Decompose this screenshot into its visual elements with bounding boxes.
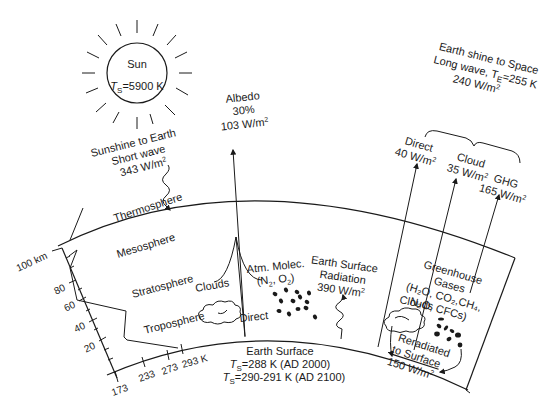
outgoing-cloud-label: Cloud 35 W/m2: [446, 149, 493, 185]
reradiated-label: Reradiated to Surface 150 W/m2: [386, 330, 452, 384]
altitude-axis: 100 km 80 60 40 20: [14, 248, 117, 378]
svg-text:103 W/m2: 103 W/m2: [220, 116, 269, 133]
svg-text:TS=290-291 K (AD 2100): TS=290-291 K (AD 2100): [223, 371, 345, 386]
greenhouse-label: Greenhouse Gases (H₂O, CO₂,CH₄, N₂O, CFC…: [401, 255, 490, 325]
atm-molec-formula: (N2, O2): [256, 271, 295, 289]
sun: Sun TS=5900 K: [82, 20, 192, 129]
temp-tick-233: 233: [137, 368, 157, 384]
outgoing-direct-label: Direct 40 W/m2: [394, 133, 441, 169]
layer-stratosphere: Stratosphere: [130, 272, 194, 300]
layer-troposphere: Troposphere: [143, 309, 206, 336]
earth-energy-balance-diagram: Sun TS=5900 K Sunshine to Earth Short wa…: [0, 0, 551, 408]
temperature-profile-line: [69, 250, 178, 348]
layer-mesosphere: Mesosphere: [115, 231, 176, 260]
atm-molecules-icon: [272, 287, 318, 320]
sun-label: Sun: [127, 58, 147, 70]
svg-text:20: 20: [82, 340, 97, 355]
direct-reflection-label: Direct: [239, 309, 269, 324]
albedo-label: Albedo 30% 103 W/m2: [220, 89, 269, 132]
sun-disc-icon: [107, 43, 167, 103]
sun-temperature: TS=5900 K: [110, 80, 164, 95]
earth-surface-label: Earth Surface TS=288 K (AD 2000) TS=290-…: [223, 345, 345, 386]
svg-text:80: 80: [52, 282, 67, 297]
earthshine-label: Earth shine to Space Long wave, TE=255 K…: [429, 39, 543, 104]
surface-radiation-label: Earth Surface Radiation 390 W/m2: [307, 253, 379, 300]
ghg-cloud-icon: [384, 308, 425, 333]
sun-rays-icon: [82, 20, 192, 129]
temp-tick-293: 293 K: [181, 352, 209, 370]
svg-text:Albedo: Albedo: [225, 89, 260, 105]
layer-thermosphere: Thermosphere: [112, 190, 184, 224]
svg-text:Earth Surface: Earth Surface: [246, 345, 313, 357]
clouds-label: Clouds: [194, 276, 230, 294]
altitude-100km: 100 km: [14, 250, 48, 274]
temp-tick-273: 273: [160, 361, 180, 377]
temp-tick-173: 173: [110, 382, 130, 398]
surface-radiation-arrow-icon: [336, 295, 344, 339]
sunshine-label: Sunshine to Earth Short wave 343 W/m2: [89, 126, 183, 184]
direct-outgoing-arrow: [378, 164, 417, 347]
svg-text:60: 60: [62, 299, 77, 314]
svg-text:40: 40: [72, 320, 87, 335]
svg-text:30%: 30%: [232, 103, 255, 117]
